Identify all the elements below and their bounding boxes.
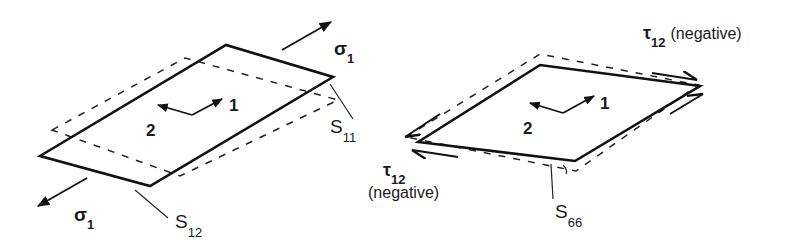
shear-arrow-bottom-icon <box>412 150 458 157</box>
sigma1-bottom-arrow-icon <box>38 178 87 206</box>
shear-arrow-top-icon <box>652 73 697 80</box>
material-axes-right: 1 2 <box>523 94 609 138</box>
original-element-right <box>418 65 700 161</box>
right-angle-mark-icon <box>563 165 567 174</box>
axis-1-arrow-icon <box>192 99 222 115</box>
material-axes-left: 1 2 <box>146 96 238 140</box>
s66-leader-line <box>551 164 553 199</box>
figure-canvas: 1 2 σ1 σ1 S11 S12 1 2 <box>0 0 808 249</box>
axis-1-arrow-icon <box>563 96 594 113</box>
sigma1-top-label: σ1 <box>334 38 354 66</box>
axis-1-label: 1 <box>229 96 238 115</box>
axis-2-arrow-icon <box>530 103 563 113</box>
shear-arrow-right-icon <box>670 94 703 114</box>
axis-2-label: 2 <box>523 119 532 138</box>
s66-label: S66 <box>555 201 582 230</box>
axis-2-label: 2 <box>146 121 155 140</box>
original-element-left <box>40 45 333 186</box>
s11-leader-line <box>330 84 353 119</box>
s12-label: S12 <box>175 211 202 240</box>
s11-label: S11 <box>330 116 356 145</box>
sigma1-bottom-label: σ1 <box>74 204 94 232</box>
tau12-left-label: τ12 <box>383 160 406 187</box>
left-panel-uniaxial-stress: 1 2 σ1 σ1 S11 S12 <box>38 22 356 240</box>
sigma1-top-arrow-icon <box>282 22 331 50</box>
axis-1-label: 1 <box>600 94 609 113</box>
s12-leader-line <box>135 190 168 218</box>
tau12-top-label: τ12(negative) <box>643 23 742 50</box>
shear-arrow-left-icon <box>405 114 440 137</box>
right-panel-shear-stress: 1 2 τ12(negative) τ12 (negative) S66 <box>368 23 742 230</box>
axis-2-arrow-icon <box>158 105 192 115</box>
tau12-left-note: (negative) <box>368 184 439 201</box>
